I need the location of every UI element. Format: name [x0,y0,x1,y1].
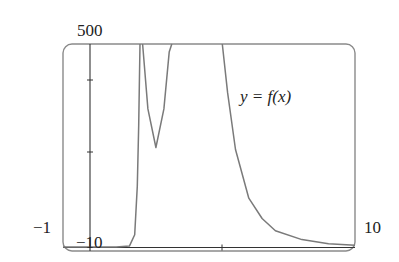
function-curve [63,44,355,247]
curve-segment [222,44,355,245]
plot-frame [63,44,355,251]
x-max-label: 10 [364,219,381,236]
y-min-label: −10 [76,234,103,251]
x-min-label: −1 [33,219,51,236]
legend-label: y = f(x) [240,88,291,105]
y-max-label: 500 [77,22,103,39]
chart-canvas [0,0,399,262]
curve-segment [63,44,140,247]
curve-segment [143,44,172,148]
